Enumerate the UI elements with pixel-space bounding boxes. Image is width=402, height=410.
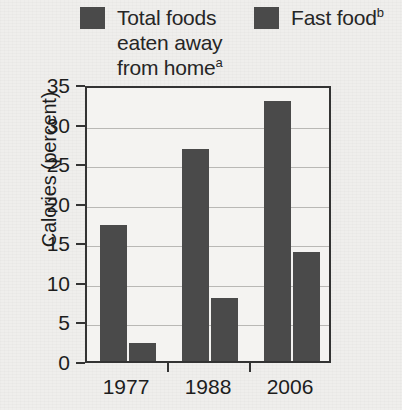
x-axis-tick-label: 2006 (245, 375, 335, 399)
legend-label-total-foods-text: Total foods eaten away from home (117, 6, 222, 79)
bar (211, 298, 238, 361)
y-axis-tick-label: 20 (0, 194, 70, 215)
legend-label-fast-food: Fast foodb (291, 5, 384, 30)
bar (293, 252, 320, 361)
y-axis-tick-label: 30 (0, 115, 70, 136)
y-axis-tick-mark (76, 362, 85, 364)
legend-swatch-fast-food (254, 7, 279, 29)
legend-label-total-foods: Total foods eaten away from homea (117, 5, 223, 80)
y-axis-tick-mark (76, 125, 85, 127)
y-axis-tick-mark (76, 283, 85, 285)
x-axis-tick-label: 1977 (81, 375, 171, 399)
y-axis-tick-mark (76, 243, 85, 245)
legend-footnote-marker-b: b (377, 5, 384, 20)
x-axis-tick-mark (249, 363, 251, 372)
y-axis-tick-mark (76, 204, 85, 206)
bar (100, 225, 127, 361)
bar (264, 101, 291, 361)
legend-entry-fast-food: Fast foodb (254, 5, 384, 30)
legend-footnote-marker-a: a (216, 55, 223, 70)
x-axis-tick-label: 1988 (163, 375, 253, 399)
x-axis-tick-mark (167, 363, 169, 372)
y-axis-tick-label: 25 (0, 154, 70, 175)
bar-chart-figure: Total foods eaten away from homea Fast f… (0, 0, 402, 410)
y-axis-tick-label: 0 (0, 352, 70, 373)
legend-entry-total-foods: Total foods eaten away from homea (80, 5, 223, 80)
y-axis-tick-mark (76, 164, 85, 166)
bar (182, 149, 209, 361)
y-axis-tick-label: 35 (0, 75, 70, 96)
plot-area (85, 86, 331, 363)
legend-swatch-total-foods (80, 7, 105, 29)
y-axis-tick-label: 10 (0, 273, 70, 294)
y-axis-tick-label: 15 (0, 233, 70, 254)
y-axis-tick-mark (76, 85, 85, 87)
bar (129, 343, 156, 361)
y-axis-tick-mark (76, 322, 85, 324)
gridline (87, 128, 329, 129)
y-axis-tick-label: 5 (0, 312, 70, 333)
legend-label-fast-food-text: Fast food (291, 6, 377, 29)
